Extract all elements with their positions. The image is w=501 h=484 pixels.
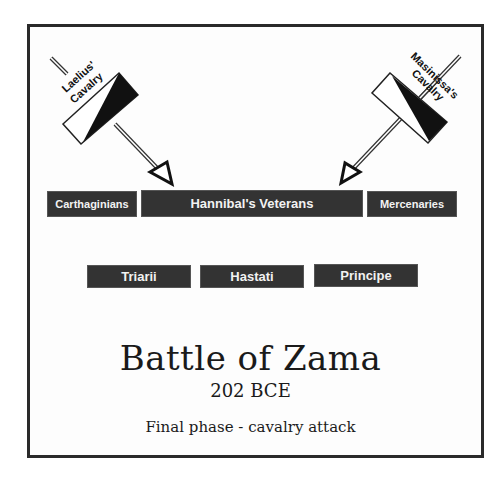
- unit-hastati: Hastati: [200, 265, 304, 288]
- unit-principe: Principe: [314, 264, 418, 287]
- unit-hannibals-veterans: Hannibal's Veterans: [141, 190, 363, 217]
- diagram-subtitle: Final phase - cavalry attack: [0, 418, 501, 436]
- unit-triarii: Triarii: [87, 265, 191, 288]
- cavalry-arrows-layer: Laelius' Cavalry Masinissa's Cavalry: [0, 0, 501, 484]
- diagram-date: 202 BCE: [0, 380, 501, 401]
- unit-mercenaries: Mercenaries: [367, 191, 457, 217]
- diagram-title: Battle of Zama: [0, 338, 501, 378]
- unit-carthaginians: Carthaginians: [47, 191, 137, 217]
